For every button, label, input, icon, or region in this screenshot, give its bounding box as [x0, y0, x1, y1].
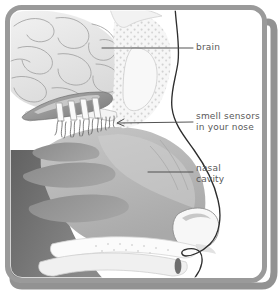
anatomy-svg — [0, 0, 279, 295]
label-nasal-cavity-line2: cavity — [196, 174, 224, 185]
illustration-canvas — [0, 0, 279, 295]
label-brain-line1: brain — [196, 42, 220, 53]
label-smell-sensors-line2: in your nose — [196, 122, 260, 133]
label-smell-sensors: smell sensors in your nose — [196, 111, 260, 133]
scene-group — [0, 0, 279, 295]
label-smell-sensors-line1: smell sensors — [196, 111, 260, 122]
uvula-shadow — [175, 258, 182, 274]
label-brain: brain — [196, 42, 220, 53]
label-nasal-cavity-line1: nasal — [196, 163, 224, 174]
label-nasal-cavity: nasal cavity — [196, 163, 224, 185]
illustration-frame: brain smell sensors in your nose nasal c… — [0, 0, 279, 295]
